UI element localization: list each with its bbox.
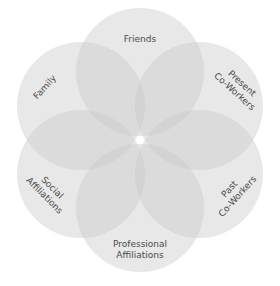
circle-family (17, 42, 145, 170)
label-friends: Friends (124, 34, 157, 44)
label-professional: Professional (113, 239, 167, 249)
venn-diagram: Friends Present Co-Workers Past Co-Worke… (0, 0, 280, 286)
label-affiliations-professional: Affiliations (116, 250, 164, 260)
